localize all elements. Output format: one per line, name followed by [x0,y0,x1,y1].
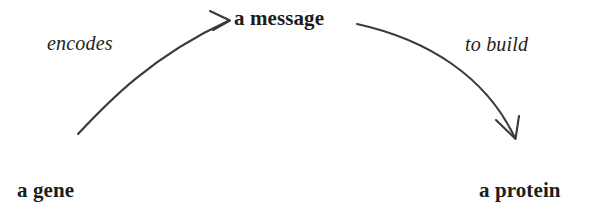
edge-label-encodes: encodes [47,33,113,53]
encodes-arrowhead-icon [210,11,230,30]
node-label-protein: a protein [479,180,561,201]
to-build-arrowhead-icon [496,116,519,139]
edge-label-to-build: to build [465,34,528,54]
node-label-message: a message [234,8,324,29]
node-label-gene: a gene [17,180,74,201]
gene-expression-diagram: a message a gene a protein encodes to bu… [0,0,613,216]
